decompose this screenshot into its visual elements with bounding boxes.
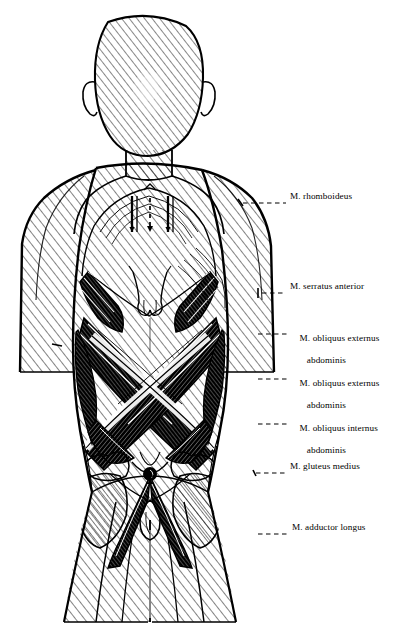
label-line-1: M. obliquus externus — [300, 333, 380, 343]
label-line-2: abdominis — [300, 445, 346, 455]
label-serratus-anterior: M. serratus anterior — [290, 281, 364, 292]
label-line-2: abdominis — [300, 400, 346, 410]
label-obliquus-internus-abdominis: M. obliquus internus abdominis — [290, 412, 378, 467]
illustration-page: M. rhomboideus M. serratus anterior M. o… — [0, 0, 402, 644]
label-adductor-longus: M. adductor longus — [292, 522, 366, 533]
label-line-1: M. obliquus externus — [300, 378, 380, 388]
label-rhomboideus: M. rhomboideus — [290, 191, 352, 202]
label-gluteus-medius: M. gluteus medius — [290, 461, 360, 472]
label-line-1: M. obliquus internus — [300, 423, 378, 433]
label-line-2: abdominis — [300, 355, 346, 365]
head — [83, 16, 215, 156]
